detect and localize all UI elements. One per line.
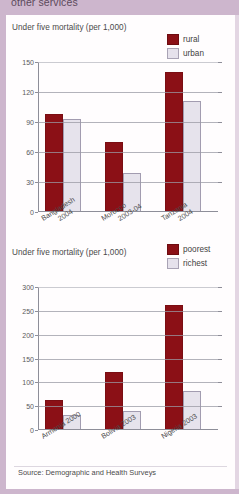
y-axis-tick-mark [35,311,38,312]
y-axis-tick-label: 100 [22,379,34,386]
chart-2-x-axis [38,429,218,430]
gridline [38,92,218,93]
gridline [38,287,218,288]
y-axis-tick-label: 0 [30,209,34,216]
y-axis-tick-mark-right [218,182,222,183]
legend-label-poorest: poorest [183,245,210,254]
legend-item-rural: rural [167,33,204,45]
y-axis-tick-label: 120 [22,89,34,96]
legend-swatch-poorest [167,244,179,255]
y-axis-tick-mark-right [218,311,222,312]
y-axis-tick-mark [35,62,38,63]
legend-item-urban: urban [167,47,204,59]
y-axis-tick-mark-right [218,62,222,63]
y-axis-tick-label: 30 [26,179,34,186]
legend-label-urban: urban [183,49,204,58]
right-rail [235,15,239,494]
page-header-band: other services [0,0,239,15]
source-note: Source: Demographic and Health Surveys [18,468,156,477]
gridline [38,311,218,312]
y-axis-tick-label: 50 [26,403,34,410]
y-axis-tick-mark [35,406,38,407]
legend-swatch-rural [167,34,179,45]
gridline [38,382,218,383]
bar-group [39,62,99,211]
y-axis-tick-mark-right [218,152,222,153]
y-axis-tick-mark-right [218,406,222,407]
bar-group [99,62,159,211]
chart-2-plot: 050100150200250300 [38,287,218,430]
gridline [38,182,218,183]
chart-1-title: Under five mortality (per 1,000) [12,23,126,32]
legend-label-richest: richest [183,259,207,268]
y-axis-tick-mark-right [218,382,222,383]
gridline [38,335,218,336]
gridline [38,152,218,153]
bar-urban-2 [183,101,201,211]
legend-swatch-urban [167,48,179,59]
chart-2-title: Under five mortality (per 1,000) [12,248,126,257]
gridline [38,359,218,360]
y-axis-tick-label: 150 [22,59,34,66]
chart-1-bars [39,62,218,211]
y-axis-tick-mark [35,122,38,123]
y-axis-tick-mark [35,182,38,183]
y-axis-tick-mark [35,212,38,213]
y-axis-tick-label: 300 [22,284,34,291]
figure-card: Under five mortality (per 1,000) rural u… [6,15,235,489]
y-axis-tick-mark-right [218,122,222,123]
y-axis-tick-label: 0 [30,427,34,434]
y-axis-tick-label: 60 [26,149,34,156]
bar-poorest-2 [165,305,183,429]
legend-item-richest: richest [167,257,210,269]
gridline [38,62,218,63]
y-axis-tick-mark [35,359,38,360]
y-axis-tick-label: 90 [26,119,34,126]
legend-item-poorest: poorest [167,243,210,255]
y-axis-tick-mark [35,430,38,431]
bar-group [159,62,219,211]
y-axis-tick-mark [35,152,38,153]
bottom-rail [0,489,239,494]
cut-off-heading: other services [11,0,78,8]
legend-swatch-richest [167,258,179,269]
y-axis-tick-mark-right [218,335,222,336]
y-axis-tick-mark [35,92,38,93]
bar-rural-0 [45,114,63,211]
y-axis-tick-label: 150 [22,355,34,362]
figure-page: other services Under five mortality (per… [0,0,239,494]
footer-divider [14,466,227,467]
y-axis-tick-mark-right [218,287,222,288]
y-axis-tick-mark-right [218,359,222,360]
y-axis-tick-mark [35,335,38,336]
legend-label-rural: rural [183,35,199,44]
y-axis-tick-mark [35,287,38,288]
chart-1-legend: rural urban [167,33,204,61]
chart-1-plot: 0306090120150 [38,62,218,212]
gridline [38,122,218,123]
gridline [38,406,218,407]
chart-2-legend: poorest richest [167,243,210,271]
y-axis-tick-label: 250 [22,307,34,314]
y-axis-tick-label: 200 [22,331,34,338]
y-axis-tick-mark [35,382,38,383]
y-axis-tick-mark-right [218,92,222,93]
